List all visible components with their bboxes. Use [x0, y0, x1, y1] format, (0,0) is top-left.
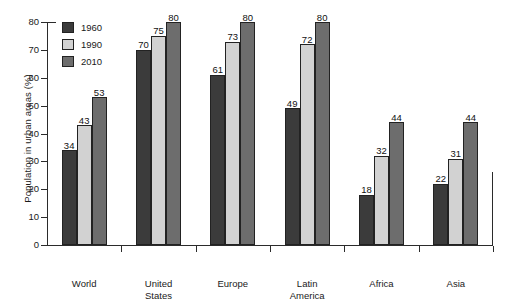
bar-value-label: 73	[228, 32, 239, 42]
bar-latin-america-2010[interactable]: 80	[315, 22, 330, 245]
bar-group-africa: 183244	[359, 22, 404, 245]
y-tick-label-40: 40	[13, 129, 39, 139]
y-tick-80	[41, 22, 47, 23]
bar-value-label: 80	[243, 13, 254, 23]
y-tick-40	[41, 134, 47, 135]
y-tick-label-70: 70	[13, 45, 39, 55]
bar-value-label: 18	[361, 185, 372, 195]
bar-value-label: 75	[153, 26, 164, 36]
y-tick-60	[41, 78, 47, 79]
bar-latin-america-1960[interactable]: 49	[285, 108, 300, 245]
bar-value-label: 44	[391, 113, 402, 123]
bar-latin-america-1990[interactable]: 72	[300, 44, 315, 245]
bar-group-latin-america: 497280	[285, 22, 330, 245]
legend: 1960 1990 2010	[62, 20, 102, 71]
y-tick-0	[41, 245, 47, 246]
legend-label-2010: 2010	[81, 57, 102, 67]
x-tick-5	[419, 246, 420, 252]
bar-value-label: 31	[451, 149, 462, 159]
bar-value-label: 72	[302, 35, 313, 45]
legend-swatch-icon-2010	[62, 56, 74, 67]
top-frame-segment	[47, 22, 56, 23]
bar-world-1990[interactable]: 43	[77, 125, 92, 245]
bar-europe-1990[interactable]: 73	[225, 42, 240, 245]
y-tick-70	[41, 50, 47, 51]
bar-group-europe: 617380	[210, 22, 255, 245]
legend-label-1990: 1990	[81, 40, 102, 50]
right-frame-line	[492, 172, 493, 246]
bar-value-label: 80	[168, 13, 179, 23]
legend-swatch-icon-1990	[62, 39, 74, 50]
y-tick-10	[41, 217, 47, 218]
bar-world-1960[interactable]: 34	[62, 150, 77, 245]
legend-item-2010[interactable]: 2010	[62, 54, 102, 69]
bar-value-label: 53	[94, 88, 105, 98]
bar-europe-1960[interactable]: 61	[210, 75, 225, 245]
bar-asia-1990[interactable]: 31	[448, 159, 463, 245]
bar-value-label: 32	[376, 146, 387, 156]
category-label-asia: Asia	[401, 278, 511, 290]
bar-europe-2010[interactable]: 80	[240, 22, 255, 245]
y-tick-label-0: 0	[13, 240, 39, 250]
plot-area: 01020304050607080 3443537075806173804972…	[47, 22, 493, 246]
y-tick-label-50: 50	[13, 101, 39, 111]
bar-value-label: 80	[317, 13, 328, 23]
y-tick-label-60: 60	[13, 73, 39, 83]
x-tick-4	[344, 246, 345, 252]
bar-world-2010[interactable]: 53	[92, 97, 107, 245]
y-axis-title: Population in urban areas (%)	[22, 39, 33, 239]
bar-value-label: 44	[466, 113, 477, 123]
bar-group-united-states: 707580	[136, 22, 181, 245]
bar-united-states-2010[interactable]: 80	[166, 22, 181, 245]
bar-asia-2010[interactable]: 44	[463, 122, 478, 245]
y-tick-label-10: 10	[13, 212, 39, 222]
y-tick-30	[41, 161, 47, 162]
legend-label-1960: 1960	[81, 23, 102, 33]
bar-united-states-1990[interactable]: 75	[151, 36, 166, 245]
x-tick-3	[270, 246, 271, 252]
bar-value-label: 43	[79, 116, 90, 126]
legend-item-1960[interactable]: 1960	[62, 20, 102, 35]
bar-value-label: 22	[436, 174, 447, 184]
x-tick-1	[121, 246, 122, 252]
y-tick-50	[41, 106, 47, 107]
y-tick-label-20: 20	[13, 184, 39, 194]
bar-united-states-1960[interactable]: 70	[136, 50, 151, 245]
legend-item-1990[interactable]: 1990	[62, 37, 102, 52]
y-tick-label-30: 30	[13, 156, 39, 166]
legend-swatch-icon-1960	[62, 22, 74, 33]
bar-africa-2010[interactable]: 44	[389, 122, 404, 245]
bar-group-asia: 223144	[433, 22, 478, 245]
bar-value-label: 61	[213, 65, 224, 75]
bar-asia-1960[interactable]: 22	[433, 184, 448, 245]
bar-africa-1990[interactable]: 32	[374, 156, 389, 245]
bar-africa-1960[interactable]: 18	[359, 195, 374, 245]
y-tick-20	[41, 189, 47, 190]
y-axis-line	[47, 22, 48, 246]
x-tick-6	[493, 246, 494, 252]
bar-value-label: 49	[287, 99, 298, 109]
bar-value-label: 70	[138, 40, 149, 50]
y-tick-label-80: 80	[13, 17, 39, 27]
x-tick-2	[196, 246, 197, 252]
bar-value-label: 34	[64, 141, 75, 151]
